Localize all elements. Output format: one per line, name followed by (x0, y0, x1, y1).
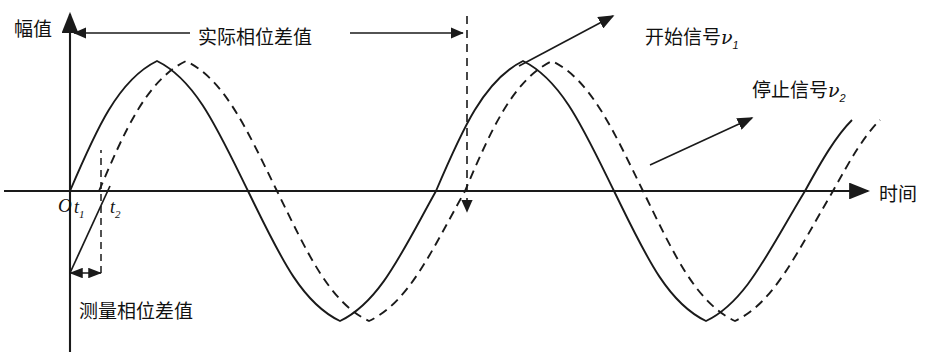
start-signal-pointer (519, 16, 613, 66)
start-signal-subscript: 1 (733, 39, 739, 51)
stop-signal-pointer (650, 118, 752, 165)
start-signal-label: 开始信号ν1 (645, 22, 739, 51)
measured-phase-difference-label: 测量相位差值 (79, 296, 193, 323)
t2-label: t2 (110, 197, 121, 220)
t1-subscript: 1 (79, 208, 85, 220)
stop-signal-subscript: 2 (840, 92, 846, 104)
stop-signal-symbol: ν (828, 79, 840, 101)
stop-signal-label: 停止信号ν2 (752, 75, 846, 104)
start-signal-text: 开始信号 (645, 27, 721, 48)
origin-label: O (58, 195, 72, 217)
x-axis-label: 时间 (879, 179, 917, 206)
phase-difference-diagram: 幅值 时间 O t1 t2 实际相位差值 测量相位差值 开始信号ν1 停止信号ν… (0, 0, 928, 352)
t2-subscript: 2 (115, 208, 121, 220)
y-axis-label: 幅值 (14, 14, 52, 41)
t1-label: t1 (74, 197, 85, 220)
stop-signal-text: 停止信号 (752, 80, 828, 101)
start-signal-symbol: ν (721, 26, 733, 48)
actual-phase-difference-label: 实际相位差值 (198, 22, 312, 49)
